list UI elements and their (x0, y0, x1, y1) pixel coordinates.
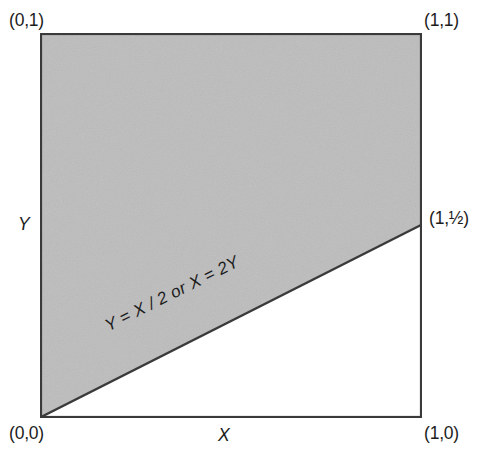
unit-square-figure: (0,1) (1,1) (1,½) (0,0) (1,0) Y X Y = X … (0, 0, 499, 468)
y-axis-label: Y (18, 216, 30, 234)
x-axis-label: X (218, 427, 230, 445)
corner-label-right-mid: (1,½) (429, 210, 469, 228)
corner-label-bottom-right: (1,0) (424, 425, 459, 443)
plot-area (40, 33, 422, 418)
corner-label-top-right: (1,1) (424, 12, 459, 30)
corner-label-bottom-left: (0,0) (9, 425, 44, 443)
plot-svg (40, 33, 422, 418)
corner-label-top-left: (0,1) (9, 12, 44, 30)
shaded-region-grain (41, 34, 421, 417)
